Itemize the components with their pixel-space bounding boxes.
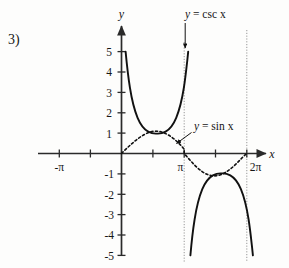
y-tick-label-5: 5 xyxy=(106,46,112,58)
y-tick-label-4: 4 xyxy=(106,66,112,78)
sin-label-leader xyxy=(177,133,192,144)
csc-label-rhs: csc x xyxy=(202,8,226,20)
x-axis-label: x xyxy=(268,147,275,161)
sin-label-rhs: sin x xyxy=(211,120,233,132)
y-axis-label: y xyxy=(118,7,125,21)
cosecant-lower-branch xyxy=(190,173,253,255)
cosecant-upper-branch xyxy=(126,52,189,134)
axes-group xyxy=(38,26,266,255)
x-tick-label-2pi: 2π xyxy=(250,161,262,173)
cosecant-curve-label: y = csc x xyxy=(184,8,226,21)
csc-label-eq: = xyxy=(190,8,202,20)
y-tick-label-1: 1 xyxy=(106,128,112,140)
sine-curve-label: y = sin x xyxy=(193,120,234,133)
x-tick-label-neg-pi: -π xyxy=(54,161,64,173)
y-tick-label-2: 2 xyxy=(106,107,112,119)
y-tick-label-neg-1: -1 xyxy=(104,168,114,180)
y-tick-label-neg-2: -2 xyxy=(104,189,114,201)
sin-label-eq: = xyxy=(199,120,211,132)
figure-page: 3) xyxy=(0,0,289,268)
graph-canvas: x y -π π 2π 5 4 3 2 1 -1 -2 -3 -4 -5 y =… xyxy=(0,0,289,268)
x-tick-label-pi: π xyxy=(178,161,184,173)
y-tick-label-3: 3 xyxy=(106,87,112,99)
y-tick-label-neg-3: -3 xyxy=(104,209,114,221)
y-tick-label-neg-4: -4 xyxy=(104,229,114,241)
y-tick-label-neg-5: -5 xyxy=(104,250,114,262)
